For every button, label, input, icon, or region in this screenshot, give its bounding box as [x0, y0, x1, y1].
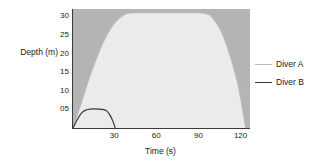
legend-item-diver-a[interactable]: Diver A: [255, 55, 310, 73]
chart-figure: Depth (m) 302520151005 306090120 Time (s…: [0, 0, 310, 161]
y-tick-label: 20: [53, 50, 69, 58]
plot-svg: [73, 9, 250, 128]
y-tick-label: 15: [53, 68, 69, 76]
y-tick-label: 10: [53, 87, 69, 95]
y-tick-label: 30: [53, 12, 69, 20]
y-axis-label: Depth (m): [6, 47, 58, 57]
legend-label: Diver B: [276, 77, 304, 87]
x-tick-label: 120: [229, 131, 253, 140]
plot-area: [72, 9, 250, 129]
legend-line-swatch: [255, 64, 272, 65]
x-tick-label: 90: [186, 131, 210, 140]
y-tick-label: 25: [53, 31, 69, 39]
legend-label: Diver A: [276, 59, 303, 69]
chart-legend: Diver ADiver B: [255, 55, 310, 91]
legend-line-swatch: [255, 82, 272, 83]
x-tick-label: 30: [102, 131, 126, 140]
x-tick-label: 60: [144, 131, 168, 140]
y-tick-label: 05: [53, 105, 69, 113]
x-axis-label: Time (s): [72, 146, 249, 156]
legend-item-diver-b[interactable]: Diver B: [255, 73, 310, 91]
